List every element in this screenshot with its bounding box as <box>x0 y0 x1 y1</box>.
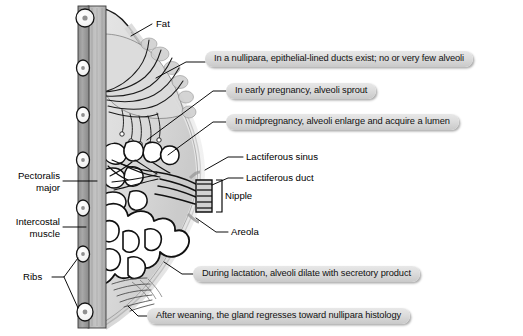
leader-lactiferous-sinus <box>205 157 243 170</box>
leader-ribs-lower <box>64 277 78 308</box>
label-intercostal-muscle-line1: Intercostal <box>0 216 60 228</box>
figure-canvas: In a nullipara, epithelial-lined ducts e… <box>0 0 523 336</box>
callout-nullipara-text: In a nullipara, epithelial-lined ducts e… <box>214 54 464 63</box>
label-lactiferous-sinus: Lactiferous sinus <box>246 151 318 163</box>
label-areola: Areola <box>231 226 259 238</box>
label-nipple: Nipple <box>225 190 252 202</box>
label-pectoralis-major: Pectoralis major <box>0 170 60 193</box>
callout-lactation: During lactation, alveoli dilate with se… <box>193 266 420 282</box>
callout-early-pregnancy-text: In early pregnancy, alveoli sprout <box>235 86 367 95</box>
callout-midpregnancy: In midpregnancy, alveoli enlarge and acq… <box>226 114 459 130</box>
callout-weaning-text: After weaning, the gland regresses towar… <box>156 311 401 320</box>
nipple-bracket <box>216 180 222 212</box>
label-fat: Fat <box>156 18 170 30</box>
label-pectoralis-major-line2: major <box>0 182 60 194</box>
callout-lactation-text: During lactation, alveoli dilate with se… <box>202 269 411 278</box>
label-lactiferous-duct: Lactiferous duct <box>246 172 314 184</box>
label-ribs: Ribs <box>23 271 42 283</box>
label-intercostal-muscle: Intercostal muscle <box>0 216 60 239</box>
leader-lactiferous-duct <box>212 178 243 185</box>
callout-midpregnancy-text: In midpregnancy, alveoli enlarge and acq… <box>235 117 450 126</box>
label-pectoralis-major-line1: Pectoralis <box>0 170 60 182</box>
callout-weaning: After weaning, the gland regresses towar… <box>147 308 410 324</box>
callout-early-pregnancy: In early pregnancy, alveoli sprout <box>226 83 376 99</box>
leader-areola <box>196 218 228 232</box>
chest-wall <box>76 6 106 328</box>
callout-nullipara: In a nullipara, epithelial-lined ducts e… <box>205 51 473 67</box>
leader-ribs-upper <box>52 258 78 277</box>
label-intercostal-muscle-line2: muscle <box>0 228 60 240</box>
